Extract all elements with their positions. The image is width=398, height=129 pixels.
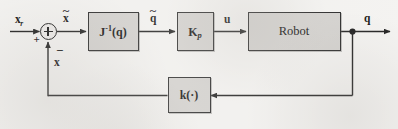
signal-label-output: q xyxy=(364,13,370,25)
block-gain-label: Kp xyxy=(188,26,202,38)
block-gain-main: K xyxy=(188,25,197,39)
tilde-accent-error: ~ xyxy=(63,6,70,16)
block-gain-subscript: p xyxy=(198,30,202,40)
signal-label-reference: xr xyxy=(15,14,24,26)
block-proportional-gain[interactable]: Kp xyxy=(177,12,214,51)
signal-label-error: ~x xyxy=(63,13,69,25)
block-forward-kinematics[interactable]: k(·) xyxy=(168,77,211,113)
block-kinematics-argument: (·) xyxy=(186,88,198,102)
tilde-accent-joint-error: ~ xyxy=(150,6,157,16)
sum-input-sign-positive: + xyxy=(34,34,40,45)
signal-label-control: u xyxy=(224,14,230,26)
block-jacobian-argument: (q) xyxy=(112,25,127,39)
block-jacobian-inverse[interactable]: J-1(q) xyxy=(88,12,139,51)
signal-reference-subscript: r xyxy=(20,19,23,28)
block-jacobian-inverse-label: J-1(q) xyxy=(99,25,126,38)
block-kinematics-label: k(·) xyxy=(180,89,199,101)
signal-label-feedback: x xyxy=(54,57,60,69)
block-robot[interactable]: Robot xyxy=(248,12,341,51)
signal-label-joint-error: ~q xyxy=(150,13,156,25)
block-robot-label: Robot xyxy=(279,25,310,38)
block-jacobian-superscript: -1 xyxy=(105,24,112,33)
block-diagram-figure: + − xr ~x ~q u q x J-1(q) Kp Robot k(·) xyxy=(0,0,398,129)
plus-circle-icon xyxy=(43,27,53,37)
